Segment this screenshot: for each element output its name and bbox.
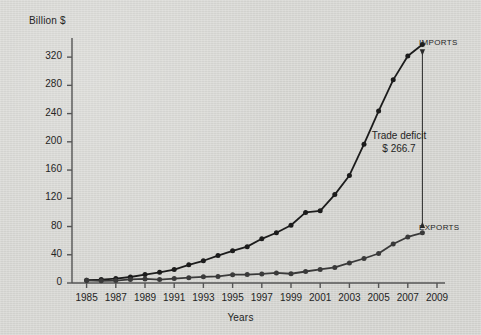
series-label-imports: IMPORTS bbox=[419, 38, 458, 47]
chart-figure: Billion $ Years 32028024020016012080400 … bbox=[0, 0, 481, 335]
trade-deficit-value: $ 266.7 bbox=[357, 142, 441, 155]
trade-deficit-annotation: Trade deficit $ 266.7 bbox=[357, 129, 441, 155]
plot-area bbox=[0, 0, 481, 335]
series-layer bbox=[84, 42, 425, 283]
trade-deficit-label: Trade deficit bbox=[357, 129, 441, 142]
series-label-exports: EXPORTS bbox=[419, 223, 460, 232]
axes-layer bbox=[67, 38, 445, 288]
